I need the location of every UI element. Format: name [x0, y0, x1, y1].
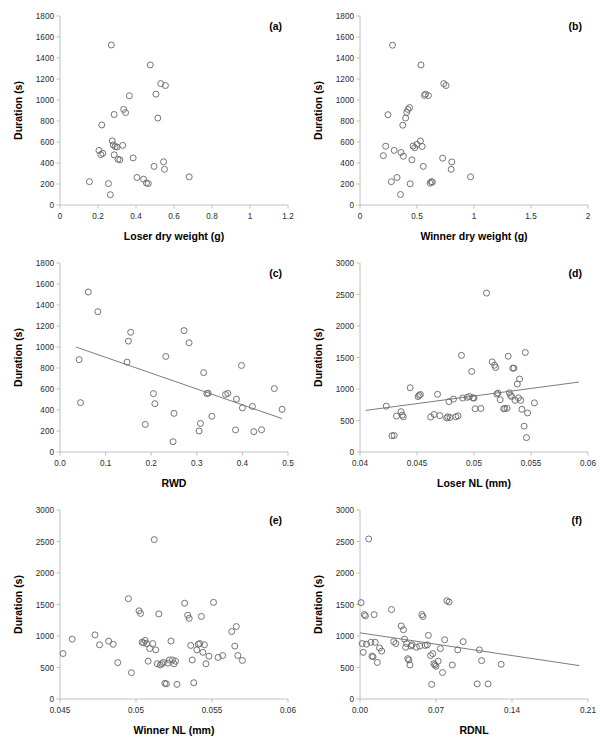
plot-svg: 0500100015002000250030000.000.070.140.21… [300, 494, 600, 741]
data-point [239, 657, 245, 663]
data-point [522, 349, 528, 355]
x-tick-label: 2 [586, 212, 591, 221]
y-tick-label: 1000 [336, 385, 355, 394]
x-tick-label: 1.2 [282, 212, 294, 221]
data-point [460, 639, 466, 645]
data-point [174, 681, 180, 687]
data-point [521, 423, 527, 429]
data-point [380, 153, 386, 159]
data-point [156, 611, 162, 617]
x-tick-label: 0.04 [352, 459, 368, 468]
y-tick-label: 2500 [36, 538, 55, 547]
data-point [108, 42, 114, 48]
data-point [420, 613, 426, 619]
data-point [517, 376, 523, 382]
figure-container: 02004006008001000120014001600180000.20.4… [0, 0, 600, 742]
data-point [110, 641, 116, 647]
x-tick-label: 0.6 [168, 212, 180, 221]
data-points-group [86, 42, 192, 198]
data-point [161, 159, 167, 165]
data-point [198, 613, 204, 619]
data-point [366, 536, 372, 542]
y-tick-label: 2500 [336, 538, 355, 547]
x-axis-title: Winner NL (mm) [134, 724, 215, 736]
y-tick-label: 0 [49, 695, 54, 704]
y-axis-title: Duration (s) [12, 328, 24, 387]
data-point [440, 155, 446, 161]
data-point [435, 391, 441, 397]
data-point [469, 368, 475, 374]
data-point [497, 397, 503, 403]
y-tick-label: 600 [340, 138, 354, 147]
y-tick-label: 1000 [36, 96, 55, 105]
data-point [78, 400, 84, 406]
data-point [472, 406, 478, 412]
x-tick-label: 1 [472, 212, 477, 221]
y-tick-label: 1600 [336, 33, 355, 42]
data-point [60, 651, 66, 657]
data-point [251, 429, 257, 435]
data-point [523, 435, 529, 441]
data-point [209, 413, 215, 419]
panel-letter: (f) [572, 514, 583, 526]
y-tick-label: 500 [40, 664, 54, 673]
data-point [86, 179, 92, 185]
x-axis-title: RWD [162, 477, 187, 489]
x-tick-label: 0.06 [280, 706, 296, 715]
data-point [111, 111, 117, 117]
x-tick-label: 0.8 [206, 212, 218, 221]
x-tick-label: 0.14 [504, 706, 520, 715]
data-point [162, 166, 168, 172]
data-points-group [358, 536, 504, 687]
data-point [92, 632, 98, 638]
panel-letter: (a) [269, 20, 282, 32]
x-axis-title: RDNL [459, 724, 489, 736]
y-tick-label: 400 [40, 406, 54, 415]
x-tick-label: 0.5 [282, 459, 294, 468]
x-tick-label: 0 [358, 212, 363, 221]
y-tick-label: 200 [340, 180, 354, 189]
y-tick-label: 0 [349, 448, 354, 457]
y-tick-label: 200 [40, 180, 54, 189]
data-point [85, 289, 91, 295]
data-point [109, 138, 115, 144]
y-tick-label: 500 [340, 664, 354, 673]
data-point [186, 340, 192, 346]
y-tick-label: 3000 [336, 259, 355, 268]
data-point [115, 660, 121, 666]
data-point [437, 413, 443, 419]
x-tick-label: 0.5 [411, 212, 423, 221]
data-point [76, 357, 82, 363]
data-point [383, 403, 389, 409]
y-tick-label: 2000 [36, 569, 55, 578]
data-point [474, 681, 480, 687]
data-point [400, 414, 406, 420]
data-point [440, 670, 446, 676]
y-tick-label: 0 [349, 695, 354, 704]
y-tick-label: 1400 [36, 54, 55, 63]
data-point [442, 637, 448, 643]
data-point [128, 670, 134, 676]
y-tick-label: 3000 [36, 506, 55, 515]
data-point [407, 385, 413, 391]
data-point [147, 62, 153, 68]
data-points-group [60, 537, 245, 688]
data-point [374, 659, 380, 665]
y-axis-title: Duration (s) [12, 81, 24, 140]
data-point [409, 157, 415, 163]
data-point [419, 143, 425, 149]
data-points-group [76, 289, 285, 445]
y-tick-label: 3000 [336, 506, 355, 515]
data-point [124, 359, 130, 365]
data-point [235, 653, 241, 659]
y-tick-label: 1000 [336, 96, 355, 105]
data-point [225, 390, 231, 396]
y-tick-label: 1400 [336, 54, 355, 63]
data-point [125, 596, 131, 602]
x-axis-title: Loser NL (mm) [437, 477, 511, 489]
plot-svg: 0500100015002000250030000.040.0450.050.0… [300, 247, 600, 494]
data-point [371, 612, 377, 618]
y-tick-label: 2000 [336, 322, 355, 331]
data-point [358, 600, 364, 606]
data-point [107, 192, 113, 198]
